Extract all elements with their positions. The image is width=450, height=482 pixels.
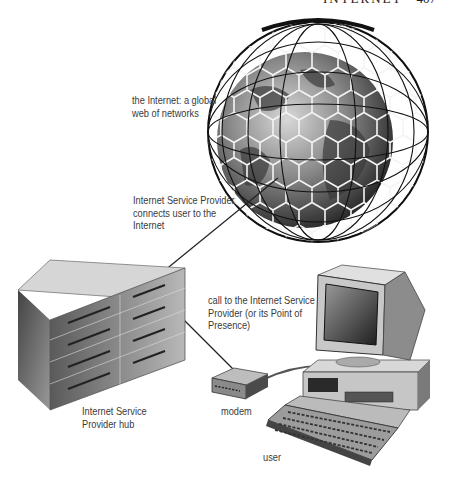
isp-role-label: Internet Service Provider connects user … bbox=[133, 194, 235, 232]
hub-label: Internet Service Provider hub bbox=[82, 405, 147, 430]
internet-label: the Internet: a global web of networks bbox=[132, 94, 216, 119]
modem-label: modem bbox=[221, 405, 252, 418]
isp-hub bbox=[18, 260, 185, 410]
modem bbox=[212, 368, 268, 399]
internet-globe bbox=[200, 20, 440, 250]
call-label: call to the Internet Service Provider (o… bbox=[208, 294, 315, 332]
user-label: user bbox=[263, 451, 281, 464]
